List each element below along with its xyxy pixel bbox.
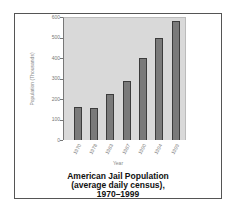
bar-1987 xyxy=(123,81,131,140)
bar-1990 xyxy=(139,58,147,140)
y-tick-label: 300 xyxy=(40,76,60,81)
y-tick-mark xyxy=(60,17,63,18)
bar-1970 xyxy=(74,107,82,140)
y-tick-label: 100 xyxy=(40,117,60,122)
y-tick-label: 0 xyxy=(40,138,60,143)
chart-title-line-3: 1970–1999 xyxy=(14,190,222,199)
bar-1983 xyxy=(106,94,114,140)
y-tick-label: 500 xyxy=(40,35,60,40)
y-tick-mark xyxy=(60,99,63,100)
plot-area xyxy=(63,17,186,140)
bar-1994 xyxy=(155,38,163,141)
y-tick-mark xyxy=(60,140,63,141)
y-tick-label: 400 xyxy=(40,56,60,61)
bar-1999 xyxy=(172,21,180,140)
y-tick-mark xyxy=(60,120,63,121)
bar-1978 xyxy=(90,108,98,140)
x-axis-label: Year xyxy=(108,160,128,166)
y-tick-mark xyxy=(60,58,63,59)
y-tick-mark xyxy=(60,79,63,80)
y-axis-label: Population (Thousands) xyxy=(29,44,35,114)
y-tick-label: 600 xyxy=(40,15,60,20)
y-tick-mark xyxy=(60,38,63,39)
chart-title: American Jail Population (average daily … xyxy=(14,172,222,199)
y-tick-label: 200 xyxy=(40,97,60,102)
